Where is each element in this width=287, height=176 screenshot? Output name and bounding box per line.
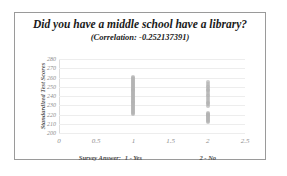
x-tick-label: 2 [206, 137, 210, 145]
category-label: 1 - Yes [125, 153, 142, 163]
gridline [59, 115, 245, 116]
data-point [206, 104, 210, 108]
gridline [59, 124, 245, 125]
title-block: Did you have a middle school have a libr… [15, 18, 265, 43]
y-tick-label: 270 [47, 65, 56, 71]
plot-area: 200210220230240250260270280 00.511.522.5 [59, 59, 245, 133]
x-tick-label: 2.5 [241, 137, 250, 145]
chart-subtitle: (Correlation: -0.252137391) [15, 32, 265, 43]
y-tick-label: 260 [47, 75, 56, 81]
gridline [59, 78, 245, 79]
gridline [59, 96, 245, 97]
x-tick-label: 1.5 [166, 137, 175, 145]
y-tick-label: 230 [47, 102, 56, 108]
gridline [59, 59, 245, 60]
x-tick-label: 1 [132, 137, 136, 145]
chart-container: Did you have a middle school have a libr… [14, 12, 266, 160]
gridline [59, 68, 245, 69]
category-labels: Survey Answer:1 - Yes2 - No [59, 153, 245, 165]
category-label: 2 - No [199, 153, 216, 163]
y-tick-label: 250 [47, 84, 56, 90]
y-tick-label: 240 [47, 93, 56, 99]
gridline [59, 105, 245, 106]
chart-title: Did you have a middle school have a libr… [15, 18, 265, 31]
category-label: Survey Answer: [79, 153, 121, 163]
data-point [131, 112, 135, 116]
y-tick-label: 220 [47, 112, 56, 118]
gridline [59, 133, 245, 134]
x-tick-label: 0 [57, 137, 61, 145]
data-point [206, 120, 210, 124]
y-tick-label: 280 [47, 56, 56, 62]
x-tick-label: 0.5 [92, 137, 101, 145]
gridline [59, 87, 245, 88]
y-tick-label: 210 [47, 121, 56, 127]
y-tick-label: 200 [47, 130, 56, 136]
